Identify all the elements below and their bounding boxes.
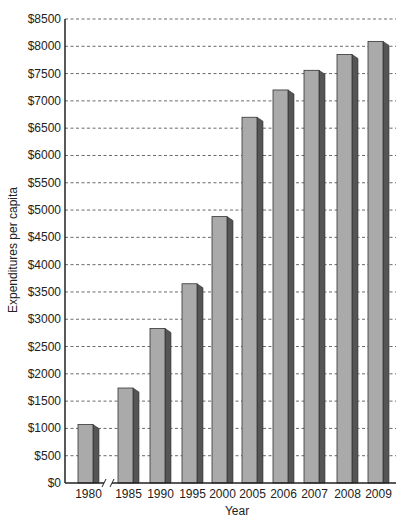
y-tick-label: $6500 (28, 121, 62, 135)
x-tick-label: 1985 (115, 487, 142, 501)
bar-side (197, 284, 203, 483)
bar-2006 (273, 90, 294, 483)
bar-front (242, 117, 257, 483)
bar-2007 (304, 70, 325, 483)
y-tick-label: $6000 (28, 148, 62, 162)
bar-1980 (78, 425, 99, 483)
bar-front (118, 388, 133, 483)
x-tick-label: 2000 (209, 487, 236, 501)
bar-2009 (368, 41, 389, 483)
bar-chart: $0$500$1000$1500$2000$2500$3000$3500$400… (0, 0, 413, 522)
bar-side (383, 41, 389, 483)
x-tick-label: 2009 (365, 487, 392, 501)
bar-front (273, 90, 288, 483)
x-tick-label: 1995 (179, 487, 206, 501)
y-axis-title: Expenditures per capita (6, 187, 20, 313)
bar-front (78, 425, 93, 483)
y-tick-label: $5500 (28, 176, 62, 190)
bar-side (133, 388, 139, 483)
bar-side (227, 217, 233, 483)
bars (78, 41, 389, 483)
bar-side (257, 117, 263, 483)
bar-front (212, 217, 227, 483)
y-tick-labels: $0$500$1000$1500$2000$2500$3000$3500$400… (28, 12, 62, 490)
bar-front (150, 329, 165, 483)
bar-side (288, 90, 294, 483)
x-tick-label: 2006 (270, 487, 297, 501)
y-tick-label: $1000 (28, 421, 62, 435)
bar-2005 (242, 117, 263, 483)
bar-front (337, 54, 352, 483)
bar-front (182, 284, 197, 483)
y-tick-label: $3000 (28, 312, 62, 326)
y-tick-label: $3500 (28, 285, 62, 299)
bar-1990 (150, 329, 171, 483)
y-tick-label: $8500 (28, 12, 62, 26)
y-tick-label: $1500 (28, 394, 62, 408)
bar-side (165, 329, 171, 483)
y-tick-label: $7500 (28, 67, 62, 81)
bar-1985 (118, 388, 139, 483)
bar-1995 (182, 284, 203, 483)
y-tick-label: $500 (34, 449, 61, 463)
bar-2008 (337, 54, 358, 483)
x-tick-label: 2008 (334, 487, 361, 501)
bar-side (93, 425, 99, 483)
x-tick-label: 1990 (147, 487, 174, 501)
x-tick-label: 2005 (239, 487, 266, 501)
bar-front (368, 41, 383, 483)
x-tick-labels: 1980198519901995200020052006200720082009 (75, 487, 392, 501)
x-tick-label: 1980 (75, 487, 102, 501)
y-tick-label: $8000 (28, 39, 62, 53)
y-tick-label: $4000 (28, 258, 62, 272)
bar-front (304, 70, 319, 483)
bar-side (352, 54, 358, 483)
y-tick-label: $0 (48, 476, 62, 490)
x-axis-title: Year (225, 504, 249, 518)
y-tick-label: $2500 (28, 340, 62, 354)
y-tick-label: $2000 (28, 367, 62, 381)
bar-2000 (212, 217, 233, 483)
y-tick-label: $4500 (28, 230, 62, 244)
y-tick-label: $5000 (28, 203, 62, 217)
x-tick-label: 2007 (301, 487, 328, 501)
y-tick-label: $7000 (28, 94, 62, 108)
bar-side (319, 70, 325, 483)
